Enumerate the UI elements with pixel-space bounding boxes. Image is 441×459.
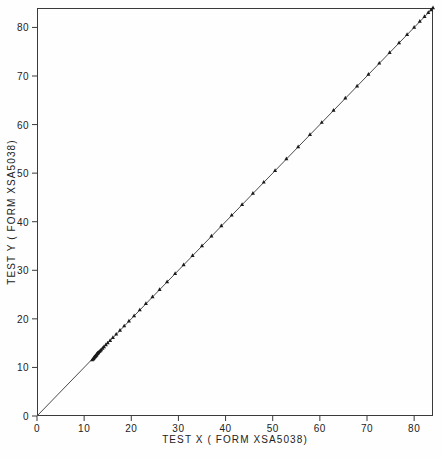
y-tick-label: 10: [17, 362, 29, 373]
y-tick-label: 30: [17, 265, 29, 276]
y-tick-label: 60: [17, 119, 29, 130]
x-tick-label: 20: [125, 423, 137, 434]
y-tick-label: 50: [17, 168, 29, 179]
x-tick-label: 80: [408, 423, 420, 434]
x-tick-label: 40: [220, 423, 232, 434]
chart-canvas: [0, 0, 441, 459]
x-tick-label: 50: [267, 423, 279, 434]
y-tick-label: 40: [17, 216, 29, 227]
x-tick-label: 10: [78, 423, 90, 434]
x-tick-label: 30: [172, 423, 184, 434]
y-tick-label: 70: [17, 71, 29, 82]
y-axis-title: TEST Y ( FORM XSA5038): [6, 139, 17, 284]
chart-page: 0102030405060708001020304050607080 TEST …: [0, 0, 441, 459]
x-axis-title: TEST X ( FORM XSA5038): [162, 434, 308, 445]
y-tick-label: 0: [23, 411, 29, 422]
y-tick-label: 20: [17, 313, 29, 324]
x-tick-label: 60: [314, 423, 326, 434]
x-tick-label: 0: [34, 423, 40, 434]
data-point: [431, 6, 435, 10]
x-tick-label: 70: [361, 423, 373, 434]
y-tick-label: 80: [17, 22, 29, 33]
